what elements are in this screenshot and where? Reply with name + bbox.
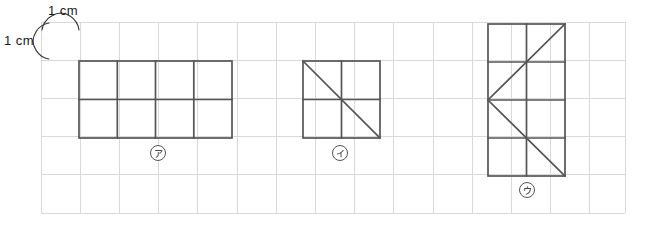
figure-label-u: ウ [519, 182, 535, 198]
unit-label-vertical: 1 cm [4, 33, 34, 48]
figure-a-shape [79, 61, 232, 138]
grid-and-figures-diagram [0, 0, 646, 227]
figure-u-shape [488, 24, 565, 176]
figure-i-shape [303, 61, 380, 138]
worksheet-canvas: 1 cm 1 cm ア イ ウ [0, 0, 646, 227]
unit-label-horizontal: 1 cm [48, 3, 78, 18]
unit-brace-marks [33, 13, 79, 59]
figure-label-i: イ [332, 145, 348, 161]
figure-label-a: ア [150, 145, 166, 161]
